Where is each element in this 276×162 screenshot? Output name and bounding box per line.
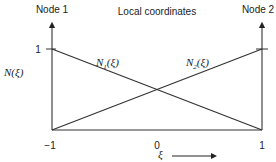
x-tick-minus-one: −1 <box>44 140 56 151</box>
node-2-label: Node 2 <box>242 4 275 15</box>
x-axis-label: ξ <box>158 148 163 161</box>
node-1-label: Node 1 <box>36 4 69 15</box>
diagram-title: Local coordinates <box>118 6 196 17</box>
n1-label: N1(ξ) <box>95 56 119 71</box>
y-tick-one-label: 1 <box>35 44 41 55</box>
shape-function-diagram: Node 1 Node 2 Local coordinates N(ξ) 1 N… <box>0 0 276 162</box>
y-axis-label: N(ξ) <box>3 66 24 79</box>
n2-label: N2(ξ) <box>185 56 209 71</box>
x-tick-one: 1 <box>259 140 265 151</box>
